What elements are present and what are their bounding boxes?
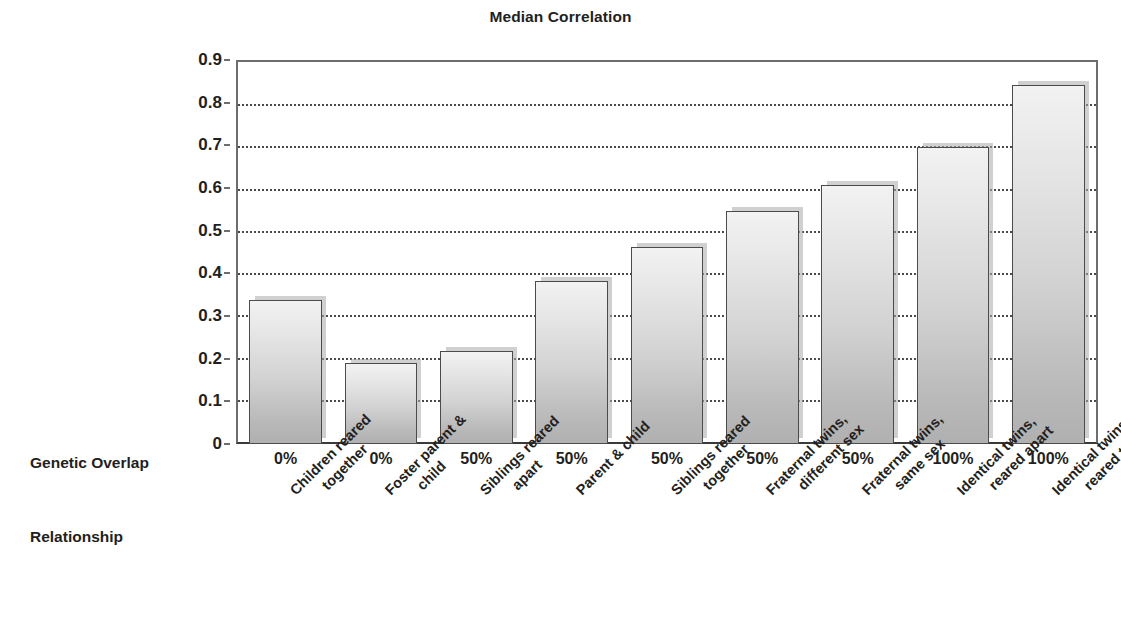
bar-slot bbox=[524, 62, 619, 444]
bar-slot bbox=[238, 62, 333, 444]
y-tick-label: 0.1 bbox=[198, 391, 222, 411]
bar[interactable] bbox=[821, 185, 893, 444]
relationship-labels: Children rearedtogetherFoster parent &ch… bbox=[238, 486, 1118, 637]
y-tick-label: 0.9 bbox=[198, 50, 222, 70]
y-tick-mark bbox=[224, 400, 230, 402]
bar-slot bbox=[333, 62, 428, 444]
bar[interactable] bbox=[1012, 85, 1084, 444]
y-tick-label: 0.3 bbox=[198, 306, 222, 326]
bar-slot bbox=[810, 62, 905, 444]
y-tick-label: 0.4 bbox=[198, 263, 222, 283]
y-tick-mark bbox=[224, 102, 230, 104]
y-tick-mark bbox=[224, 144, 230, 146]
y-axis: 0.90.80.70.60.50.40.30.20.10 bbox=[150, 60, 230, 444]
y-tick-mark bbox=[224, 443, 230, 445]
y-tick-mark bbox=[224, 230, 230, 232]
y-tick-label: 0.2 bbox=[198, 349, 222, 369]
relationship-row-label: Relationship bbox=[30, 528, 123, 546]
genetic-overlap-row-label: Genetic Overlap bbox=[30, 454, 149, 472]
y-tick-mark bbox=[224, 358, 230, 360]
y-tick-label: 0 bbox=[213, 434, 222, 454]
bar-slot bbox=[715, 62, 810, 444]
bars-layer bbox=[238, 62, 1096, 444]
page-title: Median Correlation bbox=[0, 8, 1121, 26]
bar-slot bbox=[619, 62, 714, 444]
y-tick-label: 0.7 bbox=[198, 135, 222, 155]
y-tick-mark bbox=[224, 187, 230, 189]
bar-slot bbox=[905, 62, 1000, 444]
bar-slot bbox=[1001, 62, 1096, 444]
bar[interactable] bbox=[726, 211, 798, 444]
y-tick-mark bbox=[224, 59, 230, 61]
bar[interactable] bbox=[631, 247, 703, 444]
chart-page: Median Correlation 0.90.80.70.60.50.40.3… bbox=[0, 0, 1121, 637]
bar[interactable] bbox=[917, 147, 989, 444]
y-tick-label: 0.5 bbox=[198, 221, 222, 241]
bar[interactable] bbox=[249, 300, 321, 444]
y-tick-mark bbox=[224, 315, 230, 317]
bar-slot bbox=[429, 62, 524, 444]
y-tick-label: 0.8 bbox=[198, 93, 222, 113]
y-tick-mark bbox=[224, 272, 230, 274]
y-tick-label: 0.6 bbox=[198, 178, 222, 198]
